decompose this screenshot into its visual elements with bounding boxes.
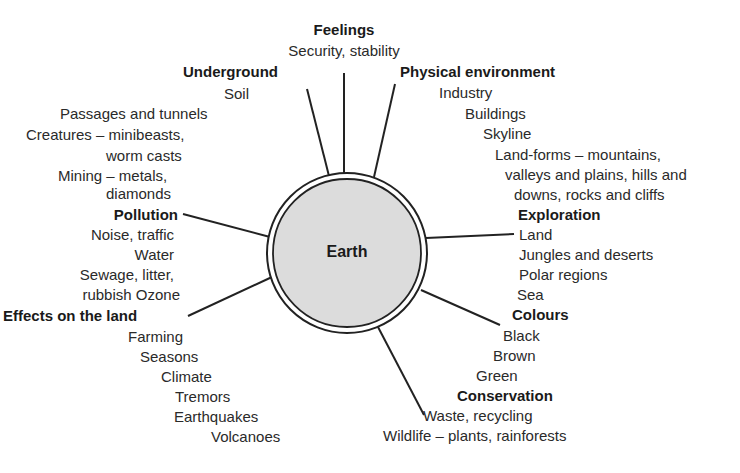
pollution-item: Sewage, litter, <box>20 265 174 285</box>
connector-pollution <box>183 214 270 237</box>
effects-item: Farming <box>128 327 183 347</box>
physical-item: Skyline <box>483 124 531 144</box>
colours-item: Brown <box>493 346 536 366</box>
exploration-item: Sea <box>517 285 544 305</box>
earth-mind-map: Earth Feelings Security, stability Under… <box>0 0 740 473</box>
exploration-item: Land <box>519 225 552 245</box>
connector-effects <box>188 277 272 316</box>
effects-item: Earthquakes <box>174 407 258 427</box>
conservation-item: Waste, recycling <box>423 406 532 426</box>
physical-item: Buildings <box>465 104 526 124</box>
feelings-heading: Feelings <box>294 20 394 40</box>
effects-heading: Effects on the land <box>3 306 137 326</box>
exploration-item: Jungles and deserts <box>519 245 653 265</box>
connector-colours <box>421 290 500 325</box>
underground-item: worm casts <box>106 146 182 166</box>
pollution-item: Water <box>40 245 174 265</box>
connector-exploration <box>426 234 514 238</box>
pollution-item: rubbish Ozone <box>20 285 180 305</box>
underground-item: Mining – metals, <box>58 166 167 186</box>
earth-label: Earth <box>297 241 397 263</box>
conservation-heading: Conservation <box>457 386 553 406</box>
underground-item: Creatures – minibeasts, <box>26 125 184 145</box>
physical-item: Industry <box>439 83 492 103</box>
underground-item: Passages and tunnels <box>60 104 208 124</box>
connector-physical <box>374 84 395 177</box>
underground-heading: Underground <box>183 62 278 82</box>
effects-item: Tremors <box>175 387 230 407</box>
physical-item: Land-forms – mountains, <box>495 145 661 165</box>
underground-item: Soil <box>224 84 249 104</box>
exploration-heading: Exploration <box>518 205 601 225</box>
colours-item: Black <box>503 326 540 346</box>
physical-heading: Physical environment <box>400 62 555 82</box>
connector-underground <box>307 89 329 176</box>
physical-item: downs, rocks and cliffs <box>514 185 665 205</box>
effects-item: Climate <box>161 367 212 387</box>
exploration-item: Polar regions <box>519 265 607 285</box>
effects-item: Seasons <box>140 347 198 367</box>
underground-item: diamonds <box>106 184 171 204</box>
pollution-item: Noise, traffic <box>40 225 174 245</box>
effects-item: Volcanoes <box>211 427 280 447</box>
pollution-heading: Pollution <box>60 205 178 225</box>
feelings-item: Security, stability <box>264 41 424 61</box>
physical-item: valleys and plains, hills and <box>505 165 687 185</box>
colours-heading: Colours <box>512 305 569 325</box>
connector-conservation <box>378 327 424 415</box>
conservation-item: Wildlife – plants, rainforests <box>383 426 566 446</box>
colours-item: Green <box>476 366 518 386</box>
